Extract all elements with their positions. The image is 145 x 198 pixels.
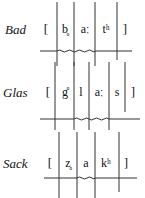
- word-label: Bad: [5, 22, 26, 38]
- segment: g̊: [62, 85, 68, 100]
- segment: kʰ: [101, 156, 111, 171]
- segment: z̥: [65, 156, 70, 171]
- open-bracket: [: [46, 84, 50, 100]
- segment: s: [115, 85, 120, 100]
- word-label: Sack: [3, 156, 28, 172]
- close-bracket: ]: [123, 21, 127, 37]
- open-bracket: [: [48, 155, 52, 171]
- close-bracket: ]: [124, 155, 128, 171]
- close-bracket: ]: [131, 84, 135, 100]
- word-label: Glas: [3, 85, 28, 101]
- segment: tʰ: [102, 22, 109, 37]
- segment: aː: [81, 22, 90, 37]
- segment: l: [79, 85, 82, 100]
- segment: b̥: [62, 22, 68, 37]
- open-bracket: [: [44, 21, 48, 37]
- segment: aː: [95, 85, 104, 100]
- segment: a: [83, 156, 88, 171]
